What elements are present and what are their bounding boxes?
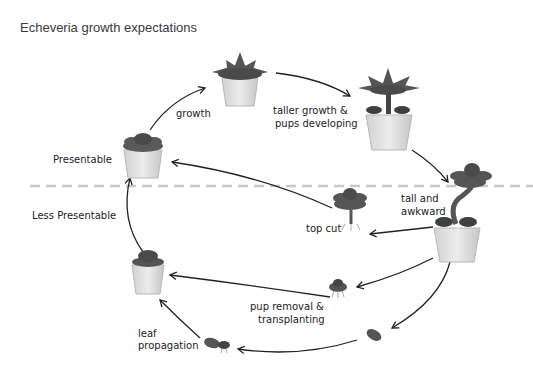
arrow-leaf-to-rosette	[238, 340, 357, 352]
arrow-top-cut	[370, 227, 433, 234]
label-pup-removal-line1: pup removal &	[250, 300, 324, 313]
leaf-with-rosette-icon	[203, 336, 230, 353]
label-taller-line1: taller growth &	[273, 104, 348, 117]
arrow-less-to-presentable	[127, 178, 143, 252]
medium-rosette-pot-icon	[212, 52, 268, 106]
arrow-taller	[276, 73, 350, 96]
pup-icon	[329, 279, 347, 298]
arrow-pup-to-pot	[170, 275, 330, 297]
arrow-pup-removal	[357, 258, 433, 287]
taller-plant-pot-icon	[358, 68, 420, 150]
label-less-presentable: Less Presentable	[32, 209, 116, 222]
label-pup-removal-line2: transplanting	[258, 313, 325, 326]
replanted-rosette-pot-icon	[132, 250, 164, 294]
arrow-leafprop-to-pot	[160, 300, 200, 338]
leaf-icon	[365, 327, 384, 344]
label-presentable: Presentable	[53, 153, 112, 166]
label-top-cut: top cut	[306, 222, 341, 235]
label-tall-line1: tall and	[401, 192, 439, 205]
label-growth: growth	[176, 107, 211, 120]
label-taller-line2: pups developing	[275, 117, 358, 130]
label-tall-line2: awkward	[401, 205, 446, 218]
arrow-to-tall	[412, 150, 448, 182]
label-leaf-line2: propagation	[138, 339, 198, 352]
small-rosette-pot-icon	[123, 133, 163, 178]
